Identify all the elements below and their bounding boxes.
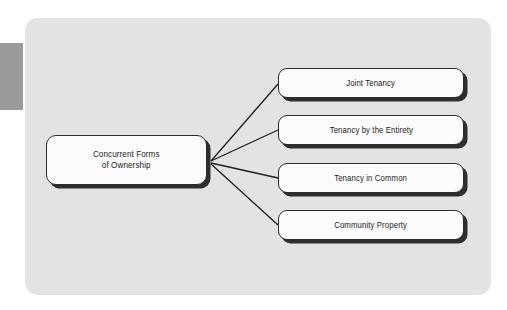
node-root-label-line1: Concurrent Forms xyxy=(93,149,160,159)
node-joint-tenancy-label: Joint Tenancy xyxy=(347,78,396,89)
node-community-property[interactable]: Community Property xyxy=(278,210,464,240)
node-root-label: Concurrent Forms of Ownership xyxy=(93,149,160,171)
node-tenancy-by-the-entirety-label: Tenancy by the Entirety xyxy=(329,125,412,136)
left-side-tab xyxy=(0,43,23,110)
node-joint-tenancy[interactable]: Joint Tenancy xyxy=(278,68,464,98)
node-tenancy-in-common-label: Tenancy in Common xyxy=(335,173,408,184)
node-tenancy-in-common[interactable]: Tenancy in Common xyxy=(278,163,464,193)
node-root-label-line2: of Ownership xyxy=(102,160,151,170)
node-community-property-label: Community Property xyxy=(335,220,408,231)
node-root-concurrent-forms-of-ownership[interactable]: Concurrent Forms of Ownership xyxy=(46,135,207,185)
diagram-canvas: Concurrent Forms of Ownership Joint Tena… xyxy=(0,0,507,310)
node-tenancy-by-the-entirety[interactable]: Tenancy by the Entirety xyxy=(278,115,464,145)
